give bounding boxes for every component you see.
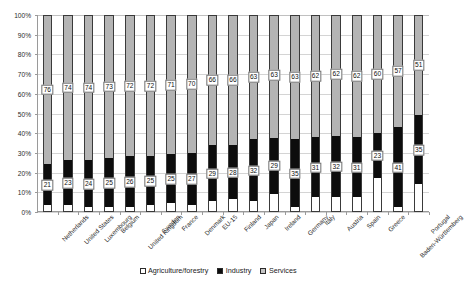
x-axis-tick bbox=[408, 212, 409, 215]
data-label-services: 74 bbox=[83, 83, 94, 94]
bar-segment-agri bbox=[353, 197, 361, 211]
stacked-bar[interactable] bbox=[393, 15, 403, 212]
chart-legend: Agriculture/forestryIndustryServices bbox=[0, 266, 436, 275]
bar-slot[interactable] bbox=[249, 15, 259, 212]
x-axis-tick bbox=[58, 212, 59, 215]
data-label-industry: 29 bbox=[207, 168, 218, 179]
y-axis-tick-label: 80% bbox=[18, 51, 31, 58]
data-label-industry: 23 bbox=[62, 178, 73, 189]
data-label-industry: 24 bbox=[83, 179, 94, 190]
x-axis-tick bbox=[305, 212, 306, 215]
data-label-industry: 27 bbox=[186, 174, 197, 185]
data-label-industry: 25 bbox=[145, 176, 156, 187]
bar-segment-agri bbox=[105, 207, 113, 211]
bar-slot[interactable] bbox=[290, 15, 300, 212]
bar-segment-agri bbox=[209, 201, 217, 211]
data-label-services: 73 bbox=[104, 82, 115, 93]
data-label-services: 63 bbox=[269, 70, 280, 81]
stacked-bar[interactable] bbox=[311, 15, 321, 212]
data-label-services: 63 bbox=[248, 72, 259, 83]
data-label-industry: 25 bbox=[165, 174, 176, 185]
bar-segment-agri bbox=[229, 199, 237, 211]
data-label-services: 71 bbox=[165, 80, 176, 91]
data-label-services: 66 bbox=[227, 75, 238, 86]
bar-slot[interactable] bbox=[393, 15, 403, 212]
stacked-bar[interactable] bbox=[228, 15, 238, 212]
bar-slot[interactable] bbox=[311, 15, 321, 212]
data-label-services: 60 bbox=[372, 69, 383, 80]
x-axis-category-label: Finland bbox=[243, 214, 262, 233]
data-label-services: 70 bbox=[186, 79, 197, 90]
bar-slot[interactable] bbox=[208, 15, 218, 212]
x-axis-tick bbox=[367, 212, 368, 215]
bar-segment-agri bbox=[44, 205, 52, 211]
x-axis-tick bbox=[78, 212, 79, 215]
bar-slot[interactable] bbox=[352, 15, 362, 212]
legend-swatch-services bbox=[260, 268, 266, 274]
bar-slot[interactable] bbox=[331, 15, 341, 212]
stacked-bar[interactable] bbox=[373, 15, 383, 212]
bar-segment-agri bbox=[250, 201, 258, 211]
x-axis-category-label: France bbox=[181, 214, 200, 233]
y-axis-tick-label: 0% bbox=[21, 209, 31, 216]
stacked-bar[interactable] bbox=[269, 15, 279, 212]
stacked-bar[interactable] bbox=[249, 15, 259, 212]
legend-item[interactable]: Industry bbox=[217, 266, 251, 275]
data-label-services: 74 bbox=[62, 83, 73, 94]
bar-slot[interactable] bbox=[414, 15, 424, 212]
x-axis-tick bbox=[243, 212, 244, 215]
x-axis-tick bbox=[120, 212, 121, 215]
legend-label: Services bbox=[269, 266, 297, 275]
bar-slot[interactable] bbox=[269, 15, 279, 212]
data-label-industry: 31 bbox=[310, 162, 321, 173]
bar-slot[interactable] bbox=[228, 15, 238, 212]
stacked-bar[interactable] bbox=[290, 15, 300, 212]
data-label-industry: 35 bbox=[289, 168, 300, 179]
stacked-bar[interactable] bbox=[352, 15, 362, 212]
x-axis-tick bbox=[346, 212, 347, 215]
stacked-bar[interactable] bbox=[208, 15, 218, 212]
legend-item[interactable]: Agriculture/forestry bbox=[140, 266, 209, 275]
bar-segment-agri bbox=[188, 205, 196, 211]
x-axis-category-label: Sweden bbox=[161, 214, 182, 235]
stacked-bar[interactable] bbox=[331, 15, 341, 212]
data-label-industry: 31 bbox=[351, 162, 362, 173]
x-axis-tick bbox=[388, 212, 389, 215]
bar-segment-agri bbox=[332, 197, 340, 211]
x-axis-tick bbox=[99, 212, 100, 215]
bar-segment-agri bbox=[394, 207, 402, 211]
y-axis-tick-label: 70% bbox=[18, 71, 31, 78]
data-label-services: 76 bbox=[42, 85, 53, 96]
x-axis-tick bbox=[326, 212, 327, 215]
data-label-services: 62 bbox=[330, 69, 341, 80]
legend-label: Agriculture/forestry bbox=[148, 266, 208, 275]
data-label-services: 62 bbox=[310, 71, 321, 82]
y-axis-tick-label: 20% bbox=[18, 169, 31, 176]
data-label-services: 63 bbox=[289, 72, 300, 83]
data-label-industry: 21 bbox=[42, 180, 53, 191]
bar-segment-agri bbox=[64, 205, 72, 211]
legend-item[interactable]: Services bbox=[260, 266, 296, 275]
x-axis-tick bbox=[223, 212, 224, 215]
x-axis-tick bbox=[140, 212, 141, 215]
stacked-bar[interactable] bbox=[414, 15, 424, 212]
x-axis-category-label: Ireland bbox=[284, 214, 302, 232]
data-label-industry: 29 bbox=[269, 160, 280, 171]
y-axis-labels: 100%90%80%70%60%50%40%30%20%10%0% bbox=[0, 15, 34, 212]
y-axis-tick-label: 10% bbox=[18, 189, 31, 196]
x-axis-tick bbox=[181, 212, 182, 215]
legend-swatch-agri bbox=[140, 268, 146, 274]
bars-container bbox=[37, 15, 429, 212]
y-axis-tick-label: 30% bbox=[18, 149, 31, 156]
bar-slot[interactable] bbox=[373, 15, 383, 212]
x-axis-tick bbox=[429, 212, 430, 215]
legend-label: Industry bbox=[226, 266, 252, 275]
y-axis-tick-label: 50% bbox=[18, 110, 31, 117]
data-label-industry: 35 bbox=[413, 145, 424, 156]
bar-segment-agri bbox=[270, 194, 278, 211]
bar-segment-agri bbox=[85, 207, 93, 211]
data-label-industry: 28 bbox=[227, 167, 238, 178]
y-axis-tick bbox=[35, 212, 38, 213]
y-axis-tick-label: 90% bbox=[18, 31, 31, 38]
